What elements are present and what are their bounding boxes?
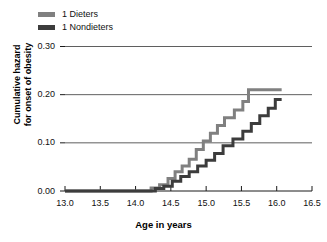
y-tick-label-0.20: 0.20	[23, 90, 55, 99]
x-tick-label-14.0: 14.0	[121, 199, 151, 208]
x-tick-label-15.0: 15.0	[191, 199, 221, 208]
y-tick-label-0.30: 0.30	[23, 42, 55, 51]
x-tick-label-15.5: 15.5	[226, 199, 256, 208]
x-tick-label-14.5: 14.5	[156, 199, 186, 208]
x-tick-label-16.5: 16.5	[297, 199, 327, 208]
x-tick-label-16.0: 16.0	[262, 199, 292, 208]
x-tick-label-13.5: 13.5	[85, 199, 115, 208]
y-tick-label-0.00: 0.00	[23, 187, 55, 196]
y-tick-label-0.10: 0.10	[23, 138, 55, 147]
plot-area: 0.000.100.200.3013.013.514.014.515.015.5…	[0, 0, 327, 242]
chart-figure: 1 Dieters 1 Nondieters Cumulative hazard…	[0, 0, 327, 242]
x-tick-label-13.0: 13.0	[50, 199, 80, 208]
series-line-dieters	[65, 90, 282, 191]
x-axis-title: Age in years	[0, 219, 327, 230]
